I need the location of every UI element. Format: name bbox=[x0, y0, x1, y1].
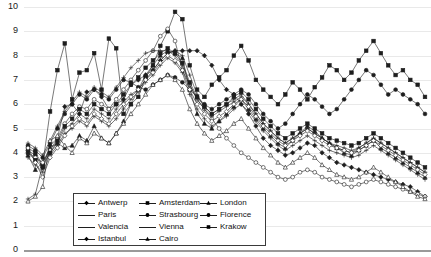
legend-label: Strasbourg bbox=[159, 211, 198, 219]
legend-entry-cairo[interactable]: Cairo bbox=[139, 233, 200, 245]
legend-entry-krakow[interactable]: Krakow bbox=[200, 221, 261, 233]
legend-entry-london[interactable]: London bbox=[200, 197, 261, 209]
chart-legend: AntwerpAmsterdamLondonParisStrasbourgFlo… bbox=[73, 193, 266, 246]
legend-entry-antwerp[interactable]: Antwerp bbox=[78, 197, 139, 209]
diamond-solid-icon bbox=[78, 199, 95, 207]
y-axis-tick-label: 10 bbox=[0, 2, 18, 11]
legend-label: Cairo bbox=[159, 235, 178, 243]
y-axis-tick-label: 1 bbox=[0, 221, 18, 230]
plus-line3-icon bbox=[139, 223, 156, 231]
y-axis-tick-label: 9 bbox=[0, 26, 18, 35]
y-axis-tick-label: 5 bbox=[0, 124, 18, 133]
legend-entry-istanbul[interactable]: Istanbul bbox=[78, 233, 139, 245]
legend-label: London bbox=[220, 199, 247, 207]
triangle-solid-icon bbox=[200, 199, 217, 207]
circle-open-icon bbox=[139, 211, 156, 219]
legend-entry-strasbourg[interactable]: Strasbourg bbox=[139, 209, 200, 221]
legend-label: Florence bbox=[220, 211, 251, 219]
legend-label: Istanbul bbox=[98, 235, 126, 243]
plus-line2-icon bbox=[78, 223, 95, 231]
diamond-open-icon bbox=[78, 235, 95, 243]
legend-label: Amsterdam bbox=[159, 199, 200, 207]
y-axis-tick-label: 3 bbox=[0, 172, 18, 181]
chart-root: 012345678910 AntwerpAmsterdamLondonParis… bbox=[0, 0, 431, 257]
triangle-open-icon bbox=[139, 235, 156, 243]
legend-entry-florence[interactable]: Florence bbox=[200, 209, 261, 221]
plus-line-icon bbox=[78, 211, 95, 219]
legend-label: Vienna bbox=[159, 223, 184, 231]
circle-solid-icon bbox=[200, 211, 217, 219]
legend-entry-vienna[interactable]: Vienna bbox=[139, 221, 200, 233]
legend-entry-paris[interactable]: Paris bbox=[78, 209, 139, 221]
y-axis-tick-label: 7 bbox=[0, 75, 18, 84]
square-solid-icon bbox=[139, 199, 156, 207]
legend-label: Antwerp bbox=[98, 199, 127, 207]
legend-label: Paris bbox=[98, 211, 116, 219]
square-solid2-icon bbox=[200, 223, 217, 231]
y-axis-tick-label: 0 bbox=[0, 245, 18, 254]
legend-entry-amsterdam[interactable]: Amsterdam bbox=[139, 197, 200, 209]
legend-label: Valencia bbox=[98, 223, 128, 231]
y-axis-tick-label: 4 bbox=[0, 148, 18, 157]
legend-label: Krakow bbox=[220, 223, 247, 231]
y-axis-tick-label: 2 bbox=[0, 196, 18, 205]
legend-entry-valencia[interactable]: Valencia bbox=[78, 221, 139, 233]
y-axis-tick-label: 8 bbox=[0, 51, 18, 60]
y-axis-tick-label: 6 bbox=[0, 99, 18, 108]
